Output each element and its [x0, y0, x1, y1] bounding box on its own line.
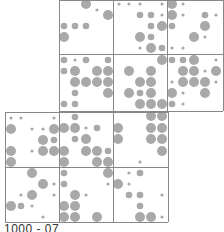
- data-dot: [103, 88, 113, 98]
- data-dot: [92, 77, 102, 87]
- data-dot: [84, 126, 87, 129]
- data-dot: [148, 34, 155, 41]
- data-dot: [124, 66, 134, 76]
- chart-caption: 1000 - 07: [4, 222, 59, 232]
- data-dot: [146, 134, 156, 144]
- data-dot: [27, 168, 37, 178]
- data-dot: [157, 99, 167, 109]
- data-dot: [103, 77, 113, 87]
- data-dot: [169, 23, 176, 30]
- data-dot: [41, 127, 44, 130]
- data-dot: [59, 146, 69, 156]
- data-dot: [70, 190, 80, 200]
- data-dot: [138, 2, 141, 5]
- data-dot: [105, 57, 112, 64]
- data-dot: [202, 12, 209, 19]
- data-dot: [59, 32, 69, 42]
- data-dot: [103, 66, 113, 76]
- data-dot: [146, 123, 156, 133]
- data-dot: [148, 23, 155, 30]
- data-dot: [211, 66, 221, 76]
- data-dot: [70, 123, 80, 133]
- data-dot: [181, 13, 184, 16]
- data-dot: [81, 0, 91, 9]
- data-dot: [70, 201, 80, 211]
- data-dot: [146, 212, 156, 222]
- data-dot: [30, 204, 33, 207]
- data-dot: [146, 43, 156, 53]
- data-dot: [146, 99, 156, 109]
- data-dot: [103, 168, 113, 178]
- data-dot: [113, 179, 123, 189]
- data-dot: [135, 77, 145, 87]
- data-dot: [178, 66, 188, 76]
- data-dot: [72, 114, 79, 121]
- bubble-matrix-chart: [0, 0, 224, 232]
- data-dot: [137, 90, 144, 97]
- data-dot: [203, 35, 206, 38]
- data-dot: [70, 77, 80, 87]
- data-dot: [148, 12, 155, 19]
- data-dot: [214, 80, 217, 83]
- data-dot: [135, 212, 145, 222]
- data-dot: [200, 77, 210, 87]
- data-dot: [19, 116, 22, 119]
- data-dot: [73, 58, 76, 61]
- data-dot: [169, 57, 176, 64]
- data-dot: [189, 55, 199, 65]
- data-dot: [27, 190, 37, 200]
- data-dot: [189, 77, 199, 87]
- data-dot: [52, 116, 55, 119]
- data-dot: [127, 171, 130, 174]
- data-dot: [41, 215, 44, 218]
- data-dot: [167, 0, 177, 9]
- data-dot: [19, 193, 22, 196]
- data-dot: [146, 88, 156, 98]
- data-dot: [6, 124, 16, 134]
- data-dot: [124, 88, 134, 98]
- data-dot: [181, 2, 184, 5]
- data-dot: [103, 157, 113, 167]
- data-dot: [81, 146, 91, 156]
- data-dot: [38, 146, 48, 156]
- data-dot: [72, 101, 79, 108]
- data-dot: [61, 101, 68, 108]
- data-dot: [160, 193, 163, 196]
- data-dot: [30, 149, 33, 152]
- data-dot: [138, 46, 141, 49]
- data-dot: [52, 193, 55, 196]
- data-dot: [178, 77, 188, 87]
- data-dot: [137, 12, 144, 19]
- data-dot: [72, 23, 79, 30]
- data-dot: [159, 45, 166, 52]
- data-dot: [84, 193, 87, 196]
- data-dot: [135, 32, 145, 42]
- data-dot: [127, 2, 130, 5]
- data-dot: [83, 57, 90, 64]
- data-dot: [51, 137, 58, 144]
- data-dot: [70, 66, 80, 76]
- data-dot: [200, 21, 210, 31]
- data-dot: [61, 57, 68, 64]
- data-dot: [113, 134, 123, 144]
- data-dot: [137, 192, 144, 199]
- data-dot: [61, 23, 68, 30]
- data-dot: [200, 88, 210, 98]
- data-dot: [92, 212, 102, 222]
- data-dot: [18, 203, 25, 210]
- data-dot: [106, 182, 109, 185]
- data-dot: [95, 8, 98, 11]
- data-dot: [38, 135, 48, 145]
- data-dot: [59, 201, 69, 211]
- data-dot: [59, 157, 69, 167]
- data-dot: [81, 77, 91, 87]
- data-dot: [94, 125, 101, 132]
- data-dot: [9, 116, 12, 119]
- data-dot: [92, 157, 102, 167]
- data-dot: [157, 21, 167, 31]
- data-dot: [72, 90, 79, 97]
- data-dot: [167, 88, 177, 98]
- data-dot: [203, 69, 206, 72]
- data-dot: [214, 13, 217, 16]
- data-dot: [138, 160, 141, 163]
